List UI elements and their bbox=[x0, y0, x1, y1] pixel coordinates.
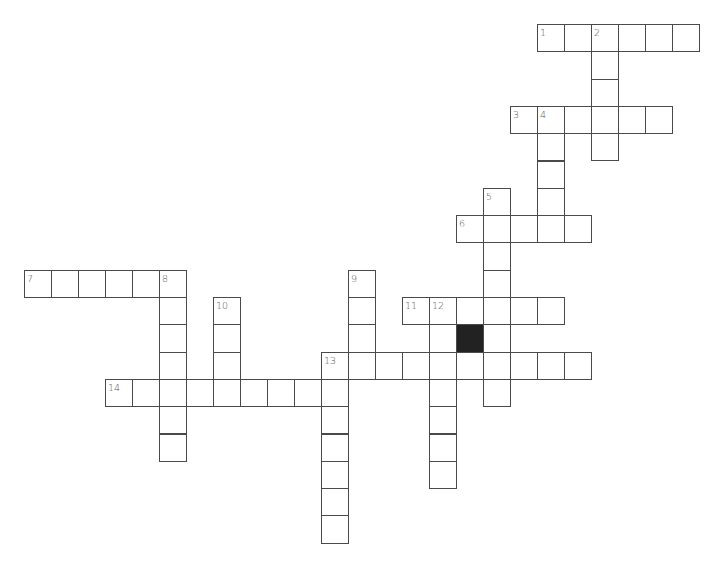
letter-input[interactable] bbox=[538, 134, 564, 160]
letter-input[interactable] bbox=[619, 107, 645, 133]
letter-input[interactable] bbox=[241, 380, 267, 406]
letter-input[interactable] bbox=[565, 107, 591, 133]
grid-cell[interactable] bbox=[483, 215, 511, 243]
letter-input[interactable] bbox=[538, 353, 564, 379]
letter-input[interactable] bbox=[565, 353, 591, 379]
letter-input[interactable] bbox=[322, 435, 348, 461]
letter-input[interactable] bbox=[592, 107, 618, 133]
grid-cell[interactable] bbox=[429, 461, 457, 489]
grid-cell[interactable] bbox=[483, 242, 511, 270]
grid-cell[interactable] bbox=[537, 133, 565, 161]
letter-input[interactable] bbox=[511, 353, 537, 379]
grid-cell[interactable] bbox=[348, 297, 376, 325]
letter-input[interactable] bbox=[538, 162, 564, 188]
grid-cell[interactable]: 2 bbox=[591, 24, 619, 52]
grid-cell[interactable] bbox=[348, 352, 376, 380]
grid-cell[interactable] bbox=[564, 352, 592, 380]
grid-cell[interactable] bbox=[483, 352, 511, 380]
letter-input[interactable] bbox=[646, 107, 672, 133]
grid-cell[interactable] bbox=[375, 352, 403, 380]
grid-cell[interactable] bbox=[213, 352, 241, 380]
grid-cell[interactable] bbox=[564, 215, 592, 243]
grid-cell[interactable] bbox=[321, 406, 349, 434]
grid-cell[interactable] bbox=[483, 379, 511, 407]
grid-cell[interactable] bbox=[564, 24, 592, 52]
grid-cell[interactable] bbox=[591, 51, 619, 79]
grid-cell[interactable]: 14 bbox=[105, 379, 133, 407]
grid-cell[interactable] bbox=[159, 379, 187, 407]
letter-input[interactable] bbox=[538, 189, 564, 215]
grid-cell[interactable] bbox=[591, 133, 619, 161]
grid-cell[interactable] bbox=[510, 352, 538, 380]
letter-input[interactable] bbox=[349, 325, 375, 351]
grid-cell[interactable] bbox=[510, 215, 538, 243]
letter-input[interactable] bbox=[484, 216, 510, 242]
grid-cell[interactable] bbox=[456, 297, 484, 325]
grid-cell[interactable] bbox=[564, 106, 592, 134]
letter-input[interactable] bbox=[538, 298, 564, 324]
grid-cell[interactable] bbox=[159, 406, 187, 434]
grid-cell[interactable] bbox=[456, 352, 484, 380]
grid-cell[interactable] bbox=[591, 106, 619, 134]
letter-input[interactable] bbox=[160, 407, 186, 433]
grid-cell[interactable] bbox=[429, 324, 457, 352]
grid-cell[interactable] bbox=[78, 270, 106, 298]
grid-cell[interactable] bbox=[159, 352, 187, 380]
letter-input[interactable] bbox=[484, 271, 510, 297]
grid-cell[interactable] bbox=[321, 379, 349, 407]
grid-cell[interactable]: 7 bbox=[24, 270, 52, 298]
grid-cell[interactable] bbox=[321, 515, 349, 543]
grid-cell[interactable] bbox=[483, 270, 511, 298]
grid-cell[interactable] bbox=[348, 324, 376, 352]
letter-input[interactable] bbox=[349, 353, 375, 379]
grid-cell[interactable] bbox=[591, 79, 619, 107]
grid-cell[interactable]: 9 bbox=[348, 270, 376, 298]
letter-input[interactable] bbox=[322, 489, 348, 515]
letter-input[interactable] bbox=[484, 380, 510, 406]
grid-cell[interactable] bbox=[294, 379, 322, 407]
grid-cell[interactable]: 1 bbox=[537, 24, 565, 52]
grid-cell[interactable]: 8 bbox=[159, 270, 187, 298]
letter-input[interactable] bbox=[430, 462, 456, 488]
grid-cell[interactable] bbox=[51, 270, 79, 298]
letter-input[interactable] bbox=[430, 407, 456, 433]
grid-cell[interactable] bbox=[213, 379, 241, 407]
grid-cell[interactable] bbox=[429, 406, 457, 434]
grid-cell[interactable] bbox=[105, 270, 133, 298]
grid-cell[interactable]: 3 bbox=[510, 106, 538, 134]
letter-input[interactable] bbox=[484, 325, 510, 351]
letter-input[interactable] bbox=[322, 516, 348, 542]
letter-input[interactable] bbox=[349, 298, 375, 324]
letter-input[interactable] bbox=[484, 298, 510, 324]
grid-cell[interactable] bbox=[186, 379, 214, 407]
letter-input[interactable] bbox=[52, 271, 78, 297]
letter-input[interactable] bbox=[295, 380, 321, 406]
letter-input[interactable] bbox=[187, 380, 213, 406]
grid-cell[interactable] bbox=[645, 24, 673, 52]
grid-cell[interactable]: 4 bbox=[537, 106, 565, 134]
letter-input[interactable] bbox=[592, 134, 618, 160]
letter-input[interactable] bbox=[403, 353, 429, 379]
grid-cell[interactable] bbox=[159, 324, 187, 352]
grid-cell[interactable] bbox=[159, 297, 187, 325]
grid-cell[interactable]: 11 bbox=[402, 297, 430, 325]
letter-input[interactable] bbox=[322, 462, 348, 488]
letter-input[interactable] bbox=[484, 353, 510, 379]
letter-input[interactable] bbox=[268, 380, 294, 406]
grid-cell[interactable] bbox=[483, 324, 511, 352]
grid-cell[interactable] bbox=[537, 215, 565, 243]
grid-cell[interactable]: 6 bbox=[456, 215, 484, 243]
grid-cell[interactable] bbox=[645, 106, 673, 134]
letter-input[interactable] bbox=[79, 271, 105, 297]
grid-cell[interactable] bbox=[618, 106, 646, 134]
grid-cell[interactable] bbox=[537, 188, 565, 216]
letter-input[interactable] bbox=[592, 80, 618, 106]
grid-cell[interactable] bbox=[132, 379, 160, 407]
letter-input[interactable] bbox=[430, 435, 456, 461]
grid-cell[interactable] bbox=[159, 434, 187, 462]
letter-input[interactable] bbox=[160, 435, 186, 461]
grid-cell[interactable] bbox=[321, 461, 349, 489]
letter-input[interactable] bbox=[592, 52, 618, 78]
letter-input[interactable] bbox=[214, 353, 240, 379]
letter-input[interactable] bbox=[430, 380, 456, 406]
